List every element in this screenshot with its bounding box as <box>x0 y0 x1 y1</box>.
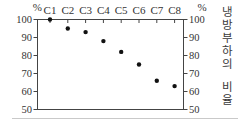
right-y-tick-label-70: 70 <box>189 68 200 80</box>
data-point-C6 <box>137 62 141 66</box>
left-y-tick-label-90: 90 <box>8 32 32 44</box>
vertical-label-char: 하 <box>222 45 233 58</box>
data-point-C8 <box>172 84 176 88</box>
vertical-label-char: 비 <box>222 81 233 94</box>
right-axis-vertical-label: 냉방부하의비율 <box>220 6 235 107</box>
cooling-load-ratio-figure: %%10010090908080707060605050C1C2C3C4C5C6… <box>0 0 242 122</box>
right-y-tick-label-100: 100 <box>189 14 205 26</box>
chart-plot-area <box>0 0 242 122</box>
data-point-C7 <box>155 79 159 83</box>
data-point-C4 <box>101 39 105 43</box>
category-label-C8: C8 <box>165 4 185 16</box>
vertical-label-char: 의 <box>222 58 233 71</box>
data-point-C5 <box>119 50 123 54</box>
vertical-label-char: 율 <box>222 94 233 107</box>
figure-bottom-rule <box>12 118 238 119</box>
right-y-tick-label-80: 80 <box>189 50 200 62</box>
left-y-tick-label-60: 60 <box>8 86 32 98</box>
left-y-tick-label-70: 70 <box>8 68 32 80</box>
data-point-C2 <box>66 26 70 30</box>
left-y-tick-label-80: 80 <box>8 50 32 62</box>
left-y-tick-label-100: 100 <box>8 14 32 26</box>
vertical-label-char: 방 <box>222 19 233 32</box>
right-y-tick-label-90: 90 <box>189 32 200 44</box>
left-y-tick-label-50: 50 <box>8 104 32 116</box>
right-y-tick-label-50: 50 <box>189 104 200 116</box>
right-y-tick-label-60: 60 <box>189 86 200 98</box>
vertical-label-char: 부 <box>222 32 233 45</box>
axes-frame <box>38 20 184 110</box>
data-point-C1 <box>48 17 52 21</box>
right-axis-unit-label: % <box>193 1 211 13</box>
data-point-C3 <box>83 30 87 34</box>
vertical-label-char: 냉 <box>222 6 233 19</box>
